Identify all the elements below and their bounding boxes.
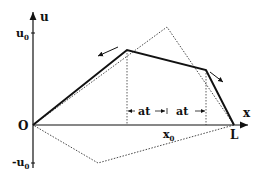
x0-label: x0 xyxy=(163,128,175,143)
L-label: L xyxy=(230,128,239,142)
u-axis-label: u xyxy=(40,10,49,24)
dotted-triangle-shape xyxy=(33,27,234,163)
at-left-label: at xyxy=(138,105,151,118)
neg-u0-label: -u0 xyxy=(12,156,30,171)
origin-label: O xyxy=(18,119,28,133)
left-moving-arrow xyxy=(98,47,118,56)
displacement-profile xyxy=(33,50,234,125)
diagram-canvas: u u0 O -u0 x L x0 at at xyxy=(0,0,267,185)
x-axis-label: x xyxy=(243,106,251,120)
at-right-label: at xyxy=(176,105,189,118)
u0-label: u0 xyxy=(16,27,29,42)
